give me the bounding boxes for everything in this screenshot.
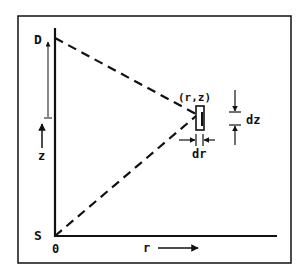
volume-element-icon bbox=[196, 106, 204, 130]
dz-label: dz bbox=[246, 113, 260, 127]
dr-indicator bbox=[179, 134, 215, 146]
source-detector-diagram: D S 0 z r (r,z) dr dz bbox=[0, 0, 307, 276]
source-label: S bbox=[34, 228, 42, 243]
volume-element-label: (r,z) bbox=[178, 91, 211, 104]
diagram-frame bbox=[18, 16, 291, 263]
origin-label: 0 bbox=[52, 242, 59, 256]
dz-indicator bbox=[229, 90, 241, 145]
z-axis-label: z bbox=[38, 149, 45, 163]
dr-label: dr bbox=[192, 147, 206, 161]
source-ray bbox=[55, 116, 196, 236]
detector-ray bbox=[55, 38, 196, 114]
detector-label: D bbox=[34, 32, 42, 47]
r-axis-label: r bbox=[143, 241, 150, 255]
